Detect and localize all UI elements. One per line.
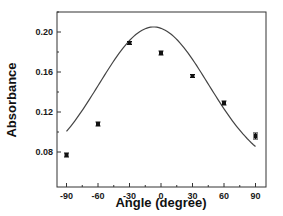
data-point	[190, 74, 195, 78]
y-tick-label: 0.20	[35, 27, 53, 37]
plot-frame	[57, 12, 266, 187]
data-point	[159, 51, 164, 55]
data-point	[96, 122, 101, 126]
data-point	[222, 101, 227, 105]
y-axis-title: Absorbance	[4, 62, 19, 137]
y-tick-label: 0.12	[35, 107, 53, 117]
y-tick-label: 0.08	[35, 147, 53, 157]
x-tick-label: 90	[250, 191, 260, 201]
x-tick-label: 60	[219, 191, 229, 201]
data-points	[64, 41, 258, 157]
data-point	[253, 133, 258, 139]
data-point	[64, 153, 69, 157]
x-tick-label: -60	[91, 191, 104, 201]
x-tick-label: -90	[60, 191, 73, 201]
chart: 0.080.120.160.20 -90-60-300306090 Angle …	[0, 0, 283, 216]
x-axis-title: Angle (degree)	[115, 195, 206, 210]
y-tick-label: 0.16	[35, 67, 53, 77]
fit-curve	[67, 27, 256, 147]
data-point	[127, 41, 132, 45]
